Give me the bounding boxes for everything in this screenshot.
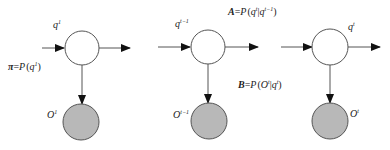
observation-label-1: O1 xyxy=(47,109,57,120)
hidden-state-node-t-minus-1 xyxy=(191,30,225,64)
time-step-1: q1 O1 π=P(q1) xyxy=(8,19,130,140)
observation-node-1 xyxy=(63,104,99,140)
hidden-state-label-t: qt xyxy=(348,21,355,32)
hmm-diagram: q1 O1 π=P(q1) qt−1 Ot−1 A=P(qt|qt−1) B=P… xyxy=(0,0,390,150)
observation-node-t xyxy=(312,103,348,139)
observation-label-t-minus-1: Ot−1 xyxy=(173,109,189,120)
hidden-state-node-1 xyxy=(65,31,99,65)
observation-label-t: Ot xyxy=(350,108,359,119)
transition-matrix-equation: A=P(qt|qt−1) xyxy=(227,6,277,18)
initial-distribution-equation: π=P(q1) xyxy=(8,61,41,73)
hidden-state-label-1: q1 xyxy=(53,19,61,30)
hidden-state-label-t-minus-1: qt−1 xyxy=(175,18,189,29)
observation-node-t-minus-1 xyxy=(191,103,227,139)
time-step-t: qt Ot xyxy=(281,21,380,139)
hidden-state-node-t xyxy=(312,29,348,65)
emission-matrix-equation: B=P(Ot|qt) xyxy=(237,79,282,91)
time-step-t-minus-1: qt−1 Ot−1 A=P(qt|qt−1) B=P(Ot|qt) xyxy=(158,6,282,139)
